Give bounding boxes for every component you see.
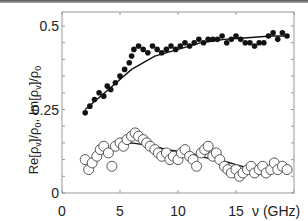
- data-point-open: [107, 161, 117, 171]
- data-point-filled: [266, 33, 272, 39]
- data-point-filled: [150, 43, 156, 49]
- data-point-open: [203, 141, 213, 151]
- data-point-filled: [129, 53, 135, 59]
- data-point-filled: [224, 40, 230, 46]
- data-point-filled: [247, 40, 253, 46]
- data-point-filled: [159, 50, 165, 56]
- data-point-filled: [122, 67, 128, 73]
- data-point-filled: [178, 43, 184, 49]
- data-series: [80, 30, 292, 181]
- data-point-filled: [201, 40, 207, 46]
- data-point-filled: [131, 47, 137, 53]
- y-tick-label: 0: [51, 185, 59, 201]
- data-point-filled: [215, 37, 221, 43]
- data-point-filled: [92, 97, 98, 103]
- data-point-filled: [284, 33, 290, 39]
- data-point-filled: [196, 37, 202, 43]
- data-point-filled: [233, 33, 239, 39]
- data-point-filled: [117, 73, 123, 79]
- x-tick-labels: 051015: [58, 203, 244, 219]
- data-point-filled: [101, 93, 107, 99]
- data-point-filled: [191, 40, 197, 46]
- data-point-filled: [96, 90, 102, 96]
- data-point-filled: [280, 30, 286, 36]
- data-point-open: [192, 161, 202, 171]
- x-tick-label: 15: [228, 203, 244, 219]
- data-point-filled: [87, 103, 93, 109]
- data-point-filled: [182, 40, 188, 46]
- data-point-filled: [270, 30, 276, 36]
- data-point-filled: [252, 43, 258, 49]
- data-point-filled: [173, 47, 179, 53]
- data-point-filled: [261, 40, 267, 46]
- x-axis-label: ν (GHz): [252, 203, 300, 219]
- data-point-filled: [126, 60, 132, 66]
- data-point-open: [282, 165, 292, 175]
- fit-line: [85, 36, 288, 110]
- y-tick-label: 0.5: [40, 18, 60, 34]
- data-point-filled: [82, 110, 88, 116]
- data-point-filled: [229, 37, 235, 43]
- data-point-filled: [113, 80, 119, 86]
- data-point-filled: [219, 33, 225, 39]
- chart: 051015 00.250.5 ν (GHz) Re[ρv]/ρ0, Im[ρv…: [0, 0, 308, 221]
- x-tick-label: 5: [116, 203, 124, 219]
- data-point-filled: [164, 47, 170, 53]
- y-axis-label: Re[ρv]/ρ0, Im[ρv]/ρ0: [26, 66, 43, 175]
- x-tick-label: 0: [58, 203, 66, 219]
- data-point-filled: [238, 37, 244, 43]
- data-point-filled: [145, 50, 151, 56]
- data-point-filled: [275, 37, 281, 43]
- data-point-filled: [108, 87, 114, 93]
- data-point-filled: [154, 47, 160, 53]
- data-point-filled: [187, 43, 193, 49]
- data-point-filled: [140, 47, 146, 53]
- x-tick-label: 10: [170, 203, 186, 219]
- data-point-filled: [136, 43, 142, 49]
- data-point-filled: [168, 43, 174, 49]
